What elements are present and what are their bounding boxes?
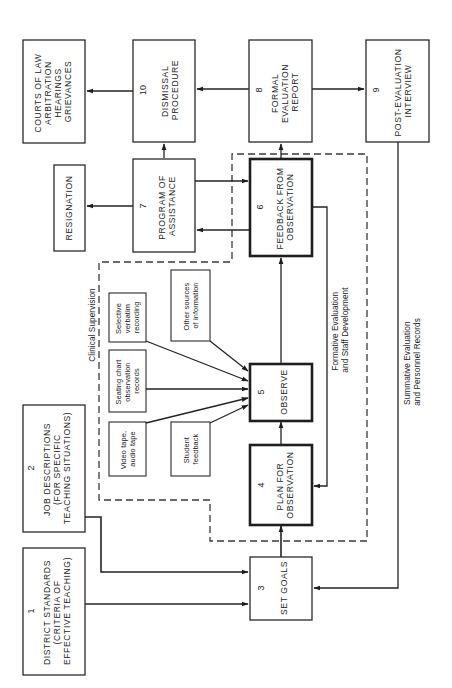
courts-line-2: ARBITRATION xyxy=(43,61,53,125)
box-9-line-2: INTERVIEW xyxy=(403,64,413,117)
source-video-audio-tape: Video tape, audio tape xyxy=(109,422,146,476)
svg-text:PROGRAM OF ASSISTANCE: PROGRAM OF ASSISTANCE xyxy=(157,172,177,240)
box-resignation: RESIGNATION xyxy=(54,165,85,251)
verbatim-line-2: verbatim xyxy=(123,304,132,333)
video-line-1: Video tape, xyxy=(119,431,128,469)
box-2-line-3: TEACHING SITUATIONS) xyxy=(62,412,72,525)
svg-text:Video tape, audio tape: Video tape, audio tape xyxy=(119,429,137,470)
box-8-number: 8 xyxy=(254,87,264,92)
box-5-line-1: OBSERVE xyxy=(279,369,289,415)
seating-line-2: observation xyxy=(123,362,132,401)
student-line-2: feedback xyxy=(191,433,200,464)
box-10-number: 10 xyxy=(138,85,148,95)
box-5-observe: 5 OBSERVE xyxy=(250,364,312,421)
arrow-video-to-5 xyxy=(146,398,248,423)
courts-line-3: HEARINGS xyxy=(53,68,63,118)
box-1-district-standards: 1 DISTRICT STANDARDS (CRITERIA OF EFFECT… xyxy=(23,548,85,675)
box-6-line-2: OBSERVATION xyxy=(285,173,295,240)
clinical-supervision-label: Clinical Supervision xyxy=(88,288,97,362)
summative-label-line-2: and Personnel Records xyxy=(413,318,422,406)
box-2-number: 2 xyxy=(26,465,36,470)
box-9-number: 9 xyxy=(371,87,381,92)
box-1-line-1: DISTRICT STANDARDS xyxy=(42,560,52,665)
box-1-number: 1 xyxy=(26,608,36,613)
arrow-other-to-5 xyxy=(210,341,248,371)
box-2-line-2: (FOR SPECIFIC xyxy=(52,434,62,505)
arrow-student-to-5 xyxy=(210,405,248,423)
box-4-number: 4 xyxy=(256,482,266,487)
courts-line-4: GRIEVANCES xyxy=(63,61,73,123)
box-8-line-1: FORMAL xyxy=(270,74,280,113)
box-3-set-goals: 3 SET GOALS xyxy=(250,557,312,620)
box-4-plan-for-observation: 4 PLAN FOR OBSERVATION xyxy=(250,445,312,525)
svg-text:Formative Evaluation and S: Formative Evaluation and Staff Developme… xyxy=(331,287,350,373)
source-student-feedback: Student feedback xyxy=(171,422,210,476)
box-4-line-1: PLAN FOR xyxy=(275,463,285,511)
box-6-number: 6 xyxy=(255,204,265,209)
box-3-line-1: SET GOALS xyxy=(279,561,289,615)
box-courts-of-law: COURTS OF LAW ARBITRATION HEARINGS GRIEV… xyxy=(23,40,85,143)
evaluation-flow-diagram: COURTS OF LAW ARBITRATION HEARINGS GRIEV… xyxy=(0,0,452,688)
box-6-feedback-from-observation: 6 FEEDBACK FROM OBSERVATION xyxy=(250,159,312,256)
box-2-job-descriptions: 2 JOB DESCRIPTIONS (FOR SPECIFIC TEACHIN… xyxy=(23,405,85,532)
svg-text:FEEDBACK FROM OBSERVATIO: FEEDBACK FROM OBSERVATION xyxy=(275,165,295,250)
courts-line-1: COURTS OF LAW xyxy=(33,53,43,132)
other-line-2: of information xyxy=(191,282,200,328)
box-7-line-1: PROGRAM OF xyxy=(157,175,167,240)
verbatim-line-1: Selective xyxy=(114,303,123,334)
source-seating-chart-records: Seating chart observation records xyxy=(109,350,146,412)
box-9-post-evaluation-interview: 9 POST-EVALUATION INTERVIEW xyxy=(366,40,429,142)
box-7-number: 7 xyxy=(138,203,148,208)
box-7-line-2: ASSISTANCE xyxy=(167,176,177,236)
box-10-dismissal-procedure: 10 DISMISSAL PROCEDURE xyxy=(133,40,195,142)
box-8-line-2: EVALUATION xyxy=(280,64,290,123)
seating-line-3: records xyxy=(132,368,141,394)
verbatim-line-3: recording xyxy=(132,302,141,334)
box-8-formal-evaluation-report: 8 FORMAL EVALUATION REPORT xyxy=(249,40,312,142)
svg-text:PLAN FOR OBSERVATION: PLAN FOR OBSERVATION xyxy=(275,451,295,518)
box-10-line-2: PROCEDURE xyxy=(170,60,180,120)
svg-text:DISMISSAL PROCEDURE: DISMISSAL PROCEDURE xyxy=(160,60,180,120)
summative-label-line-1: Summative Evaluation xyxy=(403,321,412,405)
student-line-1: Student xyxy=(182,437,191,463)
box-7-program-of-assistance: 7 PROGRAM OF ASSISTANCE xyxy=(133,159,195,252)
box-6-line-1: FEEDBACK FROM xyxy=(275,168,285,250)
formative-label-line-2: and Staff Development xyxy=(341,287,350,373)
formative-label-line-1: Formative Evaluation xyxy=(331,291,340,370)
svg-text:Other sources of informa: Other sources of information xyxy=(182,281,200,331)
svg-text:Selective verbatim: Selective verbatim recording xyxy=(114,301,141,334)
arrow-6-to-4-formative xyxy=(312,207,327,486)
video-line-2: audio tape xyxy=(128,431,137,467)
box-1-line-2: (CRITERIA OF xyxy=(52,580,62,644)
svg-text:Summative Evaluation and P: Summative Evaluation and Personnel Recor… xyxy=(403,318,422,406)
other-line-1: Other sources xyxy=(182,283,191,331)
source-selective-verbatim-recording: Selective verbatim recording xyxy=(109,293,146,342)
box-1-line-3: EFFECTIVE TEACHING) xyxy=(62,557,72,665)
box-10-line-1: DISMISSAL xyxy=(160,66,170,117)
box-3-number: 3 xyxy=(256,585,266,590)
box-2-line-1: JOB DESCRIPTIONS xyxy=(42,423,52,516)
source-other-sources-of-information: Other sources of information xyxy=(171,270,210,341)
arrow-verbatim-to-5 xyxy=(146,341,248,381)
resignation-label: RESIGNATION xyxy=(64,175,74,240)
box-4-line-2: OBSERVATION xyxy=(285,451,295,518)
box-5-number: 5 xyxy=(256,389,266,394)
box-9-line-1: POST-EVALUATION xyxy=(393,49,403,137)
box-8-line-3: REPORT xyxy=(290,72,300,111)
arrow-2-to-3 xyxy=(85,517,248,572)
svg-text:Student feedback: Student feedback xyxy=(182,433,200,464)
seating-line-1: Seating chart xyxy=(114,360,123,405)
